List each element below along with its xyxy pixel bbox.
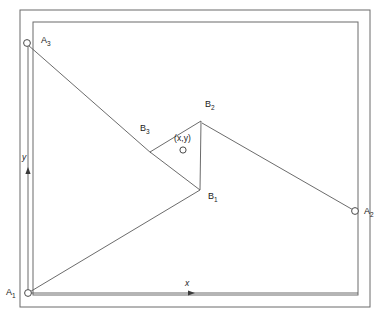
geometry-diagram-svg	[0, 0, 389, 318]
connector-a3-b3	[28, 45, 151, 153]
anchor-points-group	[24, 40, 359, 297]
triangle-shape	[150, 121, 201, 190]
triangle-b1-b2-b3	[150, 121, 201, 190]
y-axis-label: y	[22, 153, 26, 162]
centroid-coordinate-label: (x,y)	[174, 134, 191, 143]
axes-group	[25, 45, 358, 296]
vertex-label-b1: B1	[208, 192, 218, 203]
x-axis-label: x	[185, 279, 189, 288]
subscript: 2	[370, 211, 374, 218]
subscript: 1	[12, 292, 16, 299]
frames-group	[20, 10, 370, 307]
subscript: 1	[214, 196, 218, 203]
vertex-label-b2: B2	[205, 100, 215, 111]
diagram-canvas: A1 A2 A3 B1 B2 B3 (x,y) x y	[0, 0, 389, 318]
connector-a2-b2	[202, 123, 355, 211]
y-axis-arrowhead	[25, 167, 30, 174]
anchor-label-a3: A3	[41, 36, 51, 47]
connector-a1-b1	[28, 190, 200, 293]
subscript: 2	[211, 104, 215, 111]
anchor-label-a1: A1	[6, 288, 16, 299]
centroid-marker-group	[180, 147, 186, 153]
anchor-point-a2	[352, 208, 359, 215]
anchor-label-a2: A2	[364, 207, 374, 218]
outer-frame-rect	[20, 10, 370, 307]
anchor-point-a1	[25, 290, 32, 297]
anchor-point-a3	[24, 40, 31, 47]
connector-lines-group	[28, 45, 355, 293]
vertex-label-b3: B3	[140, 124, 150, 135]
centroid-marker-circle	[180, 147, 186, 153]
subscript: 3	[47, 40, 51, 47]
subscript: 3	[146, 128, 150, 135]
inner-frame-rect	[33, 22, 358, 295]
